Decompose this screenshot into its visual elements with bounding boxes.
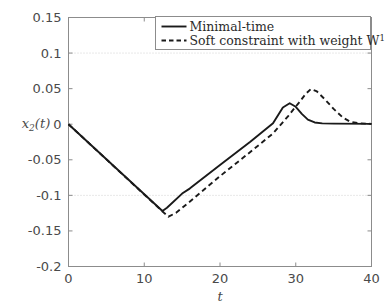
chart-figure: 0102030400.150.10.050-0.05-0.1-0.15-0.2t… xyxy=(0,0,391,305)
x-tick-label-4: 40 xyxy=(363,271,380,286)
series-line-0 xyxy=(69,103,372,211)
y-axis-label: x2(t) xyxy=(22,116,50,133)
x-tick-label-0: 0 xyxy=(64,271,72,286)
y-tick-label-3: 0 xyxy=(53,117,61,132)
y-tick-label-4: -0.05 xyxy=(28,152,62,167)
y-tick-label-5: -0.1 xyxy=(36,188,61,203)
y-tick-label-7: -0.2 xyxy=(36,259,61,274)
legend-label-0: Minimal-time xyxy=(190,19,275,34)
plot-box xyxy=(69,18,372,267)
x-axis-label: t xyxy=(217,289,223,304)
y-tick-label-2: 0.05 xyxy=(33,81,62,96)
x-tick-label-3: 30 xyxy=(287,271,304,286)
line-chart: 0102030400.150.10.050-0.05-0.1-0.15-0.2t… xyxy=(0,0,391,305)
legend-label-1: Soft constraint with weight W1 xyxy=(190,33,385,48)
series-line-1 xyxy=(69,89,372,217)
y-tick-label-1: 0.1 xyxy=(41,46,62,61)
y-tick-label-0: 0.15 xyxy=(33,10,62,25)
y-tick-label-6: -0.15 xyxy=(28,223,62,238)
x-tick-label-2: 20 xyxy=(212,271,229,286)
x-tick-label-1: 10 xyxy=(136,271,153,286)
